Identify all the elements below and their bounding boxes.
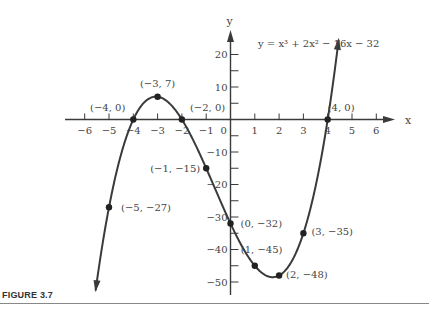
y-tick-label: −30: [206, 212, 227, 223]
y-tick-label: −40: [206, 244, 227, 255]
data-point-label: (−4, 0): [90, 102, 125, 113]
data-point: [300, 230, 306, 236]
figure-caption: FIGURE 3.7: [2, 290, 53, 300]
x-tick-label: 3: [300, 125, 306, 136]
axes: xy−6−5−4−3−2−101234562010−10−20−30−40−50: [65, 15, 412, 295]
y-tick-label: −50: [206, 277, 227, 288]
y-axis-label: y: [226, 15, 234, 28]
data-point-label: (1, −45): [241, 244, 283, 255]
x-axis-arrow-icon: [383, 116, 395, 123]
curve-arrow-left-icon: [94, 280, 101, 292]
x-tick-label: 0: [221, 125, 227, 136]
x-axis-label: x: [405, 114, 412, 127]
divider-rule: [0, 303, 429, 304]
y-tick-label: −10: [206, 147, 227, 158]
data-point: [106, 204, 112, 210]
equation-label: y = x³ + 2x² − 16x − 32: [257, 38, 379, 49]
x-tick-label: −6: [77, 125, 92, 136]
data-point-label: (2, −48): [286, 269, 328, 280]
y-tick-label: 10: [215, 82, 228, 93]
data-point: [130, 116, 136, 122]
y-tick-label: 20: [215, 49, 228, 60]
cubic-function-graph: xy−6−5−4−3−2−101234562010−10−20−30−40−50…: [0, 0, 429, 319]
data-point-label: (−3, 7): [140, 78, 175, 89]
data-point-label: (−5, −27): [121, 202, 171, 213]
data-point: [179, 116, 185, 122]
x-tick-label: −3: [150, 125, 165, 136]
y-tick-label: −20: [206, 179, 227, 190]
data-point: [276, 272, 282, 278]
data-point-label: (4, 0): [328, 102, 355, 113]
data-point-label: (0, −32): [241, 218, 283, 229]
data-point: [154, 94, 160, 100]
x-tick-label: 1: [252, 125, 258, 136]
data-point: [325, 116, 331, 122]
data-point-label: (3, −35): [311, 226, 353, 237]
x-tick-label: −1: [199, 125, 214, 136]
x-tick-label: −5: [102, 125, 117, 136]
data-point-label: (−1, −15): [150, 163, 200, 174]
x-tick-label: 6: [373, 125, 379, 136]
x-tick-label: 5: [349, 125, 355, 136]
data-point: [203, 165, 209, 171]
data-point: [227, 220, 233, 226]
x-tick-label: 2: [276, 125, 282, 136]
data-point: [252, 263, 258, 269]
y-axis-arrow-icon: [227, 30, 234, 42]
data-point-label: (−2, 0): [190, 102, 225, 113]
